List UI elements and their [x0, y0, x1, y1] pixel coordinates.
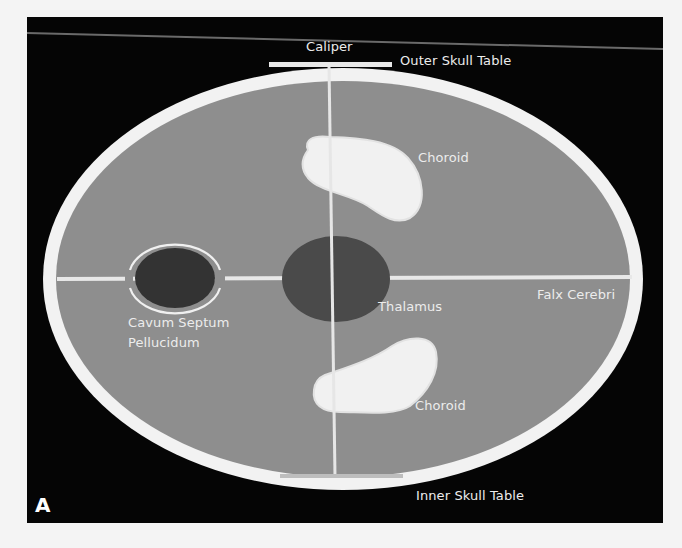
- label-outer-skull-table: Outer Skull Table: [400, 54, 511, 69]
- label-choroid-bottom: Choroid: [415, 399, 466, 414]
- label-caliper: Caliper: [306, 40, 353, 55]
- fetal-head-diagram: [0, 0, 682, 548]
- label-cavum-septum: Cavum Septum: [128, 316, 229, 331]
- panel-letter: A: [35, 493, 50, 517]
- cavum-septum-pellucidum: [135, 248, 215, 308]
- label-pellucidum: Pellucidum: [128, 336, 200, 351]
- thalamus: [282, 236, 390, 322]
- label-falx-cerebri: Falx Cerebri: [537, 288, 615, 303]
- caliper-top-bar: [269, 62, 392, 67]
- caliper-bottom-bar: [280, 474, 403, 478]
- label-thalamus: Thalamus: [378, 300, 442, 315]
- label-choroid-top: Choroid: [418, 151, 469, 166]
- label-inner-skull-table: Inner Skull Table: [416, 489, 524, 504]
